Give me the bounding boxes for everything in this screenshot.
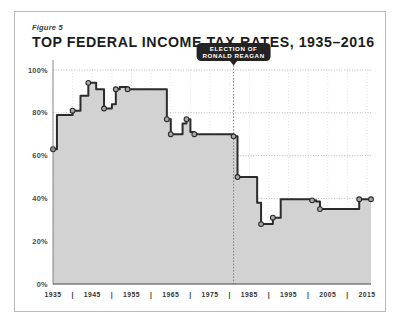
reagan-annotation: ELECTION OFRONALD REAGAN [197,43,271,66]
annotation-pointer [230,61,238,66]
x-minor-tick-mark: | [346,291,348,299]
y-tick-label: 100% [28,66,48,75]
y-tick-label: 40% [32,194,48,203]
data-point-marker [168,132,173,137]
data-point-marker [231,134,236,139]
data-point-marker [369,197,374,202]
y-tick-label: 60% [32,151,48,160]
data-point-marker [270,215,275,220]
annotation-line-2: RONALD REAGAN [203,52,265,59]
x-tick-label: 1935 [45,291,62,298]
y-tick-label: 80% [32,108,48,117]
x-minor-tick-mark: | [71,291,73,299]
x-tick-label: 1985 [241,291,258,298]
data-point-marker [164,117,169,122]
x-minor-tick-mark: | [228,291,230,299]
data-point-marker [235,175,240,180]
data-point-marker [102,106,107,111]
data-point-marker [318,207,323,212]
y-tick-label: 20% [32,237,48,246]
data-point-marker [184,117,189,122]
data-point-marker [192,132,197,137]
y-tick-label: 0% [37,280,48,289]
x-minor-tick-mark: | [111,291,113,299]
data-point-marker [357,197,362,202]
x-axis-ticklabels: 193519451955196519751985199520052015||||… [45,291,376,299]
data-point-marker [70,108,75,113]
x-tick-label: 1965 [162,291,179,298]
data-point-marker [259,222,264,227]
x-tick-label: 1995 [280,291,297,298]
data-point-marker [86,80,91,85]
tax-rate-chart: 0%20%40%60%80%100% 193519451955196519751… [15,12,387,313]
x-minor-tick-mark: | [268,291,270,299]
figure-frame: Figure 5 TOP FEDERAL INCOME TAX RATES, 1… [14,11,386,312]
x-minor-tick-mark: | [189,291,191,299]
y-axis-ticklabels: 0%20%40%60%80%100% [28,66,48,289]
data-point-marker [310,198,315,203]
data-point-marker [113,87,118,92]
x-tick-label: 1975 [202,291,219,298]
x-tick-label: 1945 [84,291,101,298]
x-minor-tick-mark: | [150,291,152,299]
x-tick-label: 2005 [319,291,336,298]
annotation-line-1: ELECTION OF [210,45,258,52]
x-tick-label: 1955 [123,291,140,298]
x-minor-tick-mark: | [307,291,309,299]
x-tick-label: 2015 [359,291,376,298]
data-point-marker [125,87,130,92]
